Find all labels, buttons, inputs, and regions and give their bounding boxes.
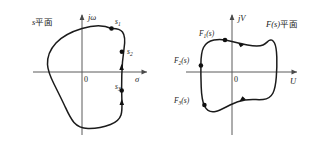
figure-container: s平面 jω σ 0 s1 s2 s3 F(s)平面 jV — [0, 0, 324, 152]
s-plane-title: s平面 — [32, 17, 53, 27]
f3s-label-tail: (s) — [181, 96, 189, 105]
jomega-axis-label: jω — [87, 12, 96, 22]
f3s-label: F3(s) — [173, 96, 190, 106]
fs-plane-title: F(s)平面 — [265, 19, 298, 29]
f1s-point-marker[interactable] — [223, 38, 228, 43]
u-axis-label: U — [290, 76, 297, 86]
s1-point-marker[interactable] — [109, 26, 114, 31]
left-origin-label: 0 — [84, 75, 88, 84]
s2-label-sub: 2 — [130, 51, 133, 57]
s-plane-title-cjk: 平面 — [35, 17, 53, 27]
s1-label-sub: 1 — [118, 21, 121, 27]
fs-plane-title-cjk: 平面 — [280, 19, 298, 29]
right-origin-label: 0 — [234, 75, 238, 84]
f2s-label-tail: (s) — [181, 56, 189, 65]
f3s-point-marker[interactable] — [202, 103, 207, 108]
f2s-point-marker[interactable] — [199, 63, 204, 68]
f1s-label: F1(s) — [198, 29, 215, 39]
s2-point-marker[interactable] — [120, 50, 125, 55]
fs-plane-title-italic: F(s) — [265, 19, 280, 29]
mapping-figure: s平面 jω σ 0 s1 s2 s3 F(s)平面 jV — [0, 0, 324, 152]
s3-label-sub: 3 — [117, 86, 121, 92]
f1s-label-tail: (s) — [206, 29, 214, 38]
f2s-label: F2(s) — [173, 56, 190, 66]
